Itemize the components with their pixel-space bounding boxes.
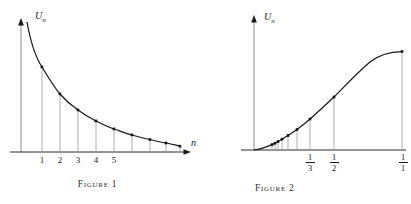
figure-2-y-axis [251, 15, 257, 150]
fraction-denominator: 3 [302, 164, 318, 173]
fraction-numerator: 1 [395, 153, 411, 162]
figure-1-tick-label-3: 3 [71, 155, 85, 165]
figure-1-drop-lines [42, 67, 180, 152]
figure-1-point-markers [41, 66, 182, 148]
fraction-numerator: 1 [326, 153, 342, 162]
figure-1-y-axis [18, 18, 24, 152]
figure-2-tick-label-one-over-one: 1 1 [395, 153, 411, 172]
figure-2-point-markers [271, 50, 404, 146]
fraction-denominator: 1 [395, 164, 411, 173]
figure-2-tick-label-one-half: 1 2 [326, 153, 342, 172]
figure-1-tick-label-5: 5 [107, 155, 121, 165]
figure-1-panel: Un n 1 2 3 4 5 Figure 1 [0, 0, 203, 204]
figure-1-y-axis-label: Un [35, 10, 46, 24]
figure-2-panel: Un 1 3 1 2 1 1 Figure 2 [203, 0, 406, 204]
figure-1-tick-label-4: 4 [89, 155, 103, 165]
fraction-denominator: 2 [326, 164, 342, 173]
figure-1-x-axis [10, 149, 191, 154]
figure-2-caption: Figure 2 [255, 183, 294, 193]
figure-2-plot [203, 0, 406, 204]
figure-1-tick-label-1: 1 [35, 155, 49, 165]
figure-1-x-axis-label: n [191, 137, 196, 148]
figure-2-tick-label-one-third: 1 3 [302, 153, 318, 172]
figure-1-tick-label-2: 2 [53, 155, 67, 165]
figure-1-caption: Figure 1 [0, 179, 199, 189]
figure-2-y-axis-label: Un [264, 11, 275, 25]
figure-1-plot [0, 0, 203, 204]
figure-2-drop-lines [272, 52, 402, 150]
figure-1-curve [27, 22, 181, 146]
figure-2-curve [254, 52, 402, 151]
fraction-numerator: 1 [302, 153, 318, 162]
